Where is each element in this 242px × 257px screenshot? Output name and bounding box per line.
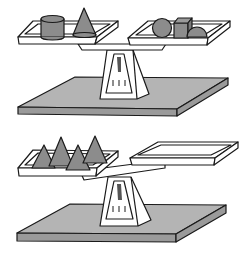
top-scale-pedestal xyxy=(100,50,149,99)
bottom-scale-right-pan xyxy=(130,142,238,165)
cylinder-object xyxy=(41,16,64,41)
top-scale-left-pan xyxy=(18,21,118,44)
sphere-object xyxy=(153,19,172,38)
top-scale xyxy=(18,8,230,116)
scales-illustration xyxy=(0,0,242,257)
cone-object-4 xyxy=(83,136,107,163)
bottom-scale-pedestal xyxy=(100,177,151,226)
bottom-scale xyxy=(17,136,238,242)
balance-scales-figure xyxy=(0,0,242,257)
